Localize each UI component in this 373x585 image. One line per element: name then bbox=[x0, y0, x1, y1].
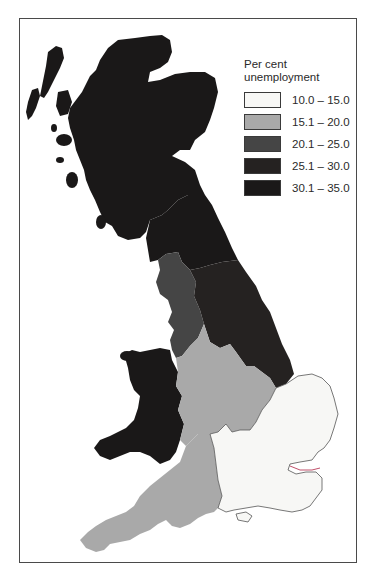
legend-label: 20.1 – 25.0 bbox=[292, 138, 350, 150]
region-scotland-isle-small-2 bbox=[56, 157, 64, 163]
legend-label: 30.1 – 35.0 bbox=[292, 182, 350, 194]
legend-label: 10.0 – 15.0 bbox=[292, 94, 350, 106]
isle-of-wight bbox=[236, 512, 252, 522]
legend-swatch bbox=[244, 136, 281, 152]
region-scotland-isle-small bbox=[51, 124, 57, 132]
region-scotland-isles-2 bbox=[26, 88, 40, 120]
legend-item: 30.1 – 35.0 bbox=[244, 177, 359, 199]
region-wales bbox=[94, 348, 184, 464]
region-scotland-isle-mull bbox=[56, 134, 72, 146]
legend-item: 10.0 – 15.0 bbox=[244, 89, 359, 111]
region-wales-anglesey bbox=[120, 351, 134, 361]
legend: Per cent unemployment 10.0 – 15.0 15.1 –… bbox=[244, 58, 359, 199]
legend-title-line2: unemployment bbox=[244, 71, 359, 84]
region-scotland-isles bbox=[40, 46, 64, 98]
legend-item: 25.1 – 30.0 bbox=[244, 155, 359, 177]
legend-swatch bbox=[244, 114, 281, 130]
legend-title-line1: Per cent bbox=[244, 58, 359, 71]
legend-title: Per cent unemployment bbox=[244, 58, 359, 84]
thames-estuary bbox=[290, 466, 320, 470]
legend-label: 25.1 – 30.0 bbox=[292, 160, 350, 172]
legend-label: 15.1 – 20.0 bbox=[292, 116, 350, 128]
legend-swatch bbox=[244, 158, 281, 174]
region-scotland-isle-islay bbox=[66, 172, 78, 188]
legend-swatch bbox=[244, 92, 281, 108]
legend-swatch bbox=[244, 180, 281, 196]
legend-item: 20.1 – 25.0 bbox=[244, 133, 359, 155]
region-scotland-isle-arran bbox=[96, 215, 106, 229]
legend-item: 15.1 – 20.0 bbox=[244, 111, 359, 133]
